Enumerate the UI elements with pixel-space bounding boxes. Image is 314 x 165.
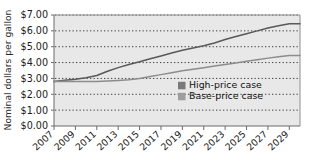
legend-label: High-price case bbox=[189, 79, 262, 90]
x-tick-labels-group: 2007200920112013201520172019202120232025… bbox=[30, 128, 290, 152]
chart-figure: $0.00$1.00$2.00$3.00$4.00$5.00$6.00$7.00… bbox=[0, 0, 314, 165]
x-tick-label: 2029 bbox=[266, 128, 291, 152]
x-tick-label: 2017 bbox=[137, 128, 162, 152]
y-tick-label: $2.00 bbox=[21, 89, 48, 100]
y-tick-labels-group: $0.00$1.00$2.00$3.00$4.00$5.00$6.00$7.00 bbox=[21, 9, 48, 131]
legend: High-price caseBase-price case bbox=[178, 79, 263, 101]
x-tick-label: 2025 bbox=[223, 128, 248, 152]
y-axis-title: Nominal dollars per gallon bbox=[2, 9, 13, 130]
x-tick-label: 2009 bbox=[52, 128, 77, 152]
plot-area-background bbox=[54, 15, 300, 126]
x-tick-label: 2011 bbox=[73, 128, 98, 152]
y-tick-label: $5.00 bbox=[21, 41, 48, 52]
y-tick-label: $0.00 bbox=[21, 120, 48, 131]
y-tick-label: $1.00 bbox=[21, 105, 48, 116]
x-tick-label: 2027 bbox=[244, 128, 269, 152]
legend-swatch bbox=[178, 93, 186, 101]
legend-label: Base-price case bbox=[189, 90, 263, 101]
x-tick-label: 2013 bbox=[94, 128, 119, 152]
x-tick-label: 2015 bbox=[116, 128, 141, 152]
y-tick-label: $7.00 bbox=[21, 9, 48, 20]
legend-swatch bbox=[178, 82, 186, 90]
y-tick-label: $6.00 bbox=[21, 25, 48, 36]
x-tick-label: 2019 bbox=[159, 128, 184, 152]
y-tick-label: $3.00 bbox=[21, 73, 48, 84]
y-tick-label: $4.00 bbox=[21, 57, 48, 68]
line-chart: $0.00$1.00$2.00$3.00$4.00$5.00$6.00$7.00… bbox=[0, 0, 314, 165]
x-tick-label: 2021 bbox=[180, 128, 205, 152]
x-tick-label: 2023 bbox=[201, 128, 226, 152]
x-tick-label: 2007 bbox=[30, 128, 55, 152]
